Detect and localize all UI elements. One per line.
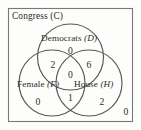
region-count-outside: 0 (124, 107, 129, 117)
region-count-democrats-female: 2 (51, 60, 56, 70)
region-count-female-only: 0 (36, 97, 41, 107)
universe-label: Congress (C) (12, 12, 63, 21)
set-label-house: House (H) (74, 80, 113, 89)
universe-symbol: (C) (50, 11, 63, 21)
set-symbol-democrats: (D) (84, 33, 97, 43)
set-label-female: Female (F) (17, 80, 59, 89)
region-count-house-only: 2 (100, 97, 105, 107)
set-name-female: Female (17, 79, 45, 89)
region-count-democrats-only: 0 (68, 46, 73, 56)
set-symbol-female: (F) (47, 79, 59, 89)
venn-diagram-figure: Congress (C) Democrats (D) Female (F) Ho… (0, 0, 141, 130)
region-count-democrats-house: 6 (87, 60, 92, 70)
set-label-democrats: Democrats (D) (41, 34, 97, 43)
universe-name: Congress (12, 11, 48, 21)
region-count-all-three: 0 (68, 70, 73, 80)
region-count-female-house: 1 (68, 93, 73, 103)
set-name-house: House (74, 79, 98, 89)
set-name-democrats: Democrats (41, 33, 82, 43)
set-symbol-house: (H) (100, 79, 113, 89)
